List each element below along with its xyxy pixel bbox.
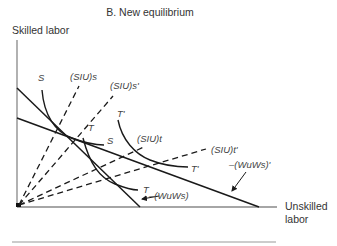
- budget-line-WuWs-prime: [17, 118, 259, 207]
- label-S-right: S: [107, 135, 114, 146]
- budget-line-WuWs: [17, 88, 140, 207]
- label-SIUs: (SIU)s: [70, 71, 97, 82]
- ray-SIUs: [19, 86, 79, 205]
- label-Tprime-top: T': [117, 108, 126, 119]
- arrow-WuWs-prime: [232, 172, 246, 191]
- label-T-top: T: [88, 122, 95, 133]
- label-Tprime-right: T': [191, 163, 200, 174]
- ray-SIUt: [19, 146, 146, 205]
- equilibrium-diagram: S S T T T' T' (SIU)s (SIU)s' (SIU)t (SIU…: [0, 0, 337, 246]
- label-S-top: S: [38, 72, 45, 83]
- label-WuWs-prime: –(WuWs)': [228, 159, 272, 170]
- label-SIUs-prime: (SIU)s': [110, 80, 140, 91]
- label-WuWs: –(WuWs): [148, 190, 189, 201]
- label-SIUt-prime: (SIU)t': [211, 144, 239, 155]
- label-SIUt: (SIU)t: [137, 133, 162, 144]
